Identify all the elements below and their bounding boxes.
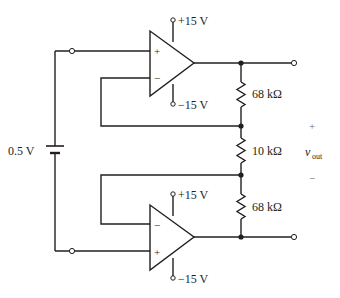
opamp-bottom-supply-neg: −15 V (178, 272, 209, 286)
supply-terminal (171, 18, 175, 22)
opamp-bottom-supply-pos: +15 V (178, 188, 209, 202)
opamp-top-supply-neg: −15 V (178, 98, 209, 112)
input-terminal-top (69, 48, 74, 53)
output-terminal-top (291, 60, 296, 65)
resistor-r2 (237, 138, 245, 163)
opamp-top-minus: − (154, 72, 160, 84)
opamp-top-plus: + (154, 45, 160, 57)
resistor-r1-label: 68 kΩ (252, 87, 282, 101)
output-terminal-bottom (291, 234, 296, 239)
vout-sub: out (312, 152, 323, 161)
battery-label: 0.5 V (8, 144, 35, 158)
vout-v: v (305, 145, 311, 159)
resistor-r3-label: 68 kΩ (252, 200, 282, 214)
supply-terminal (171, 276, 175, 280)
vout-label: + v out − (305, 120, 323, 184)
circuit-diagram: 0.5 V + − +15 V −15 V − + +15 V −15 V (0, 0, 340, 298)
input-terminal-bottom (69, 248, 74, 253)
resistor-chain: 68 kΩ 10 kΩ 68 kΩ (237, 63, 282, 237)
resistor-r3 (237, 194, 245, 219)
vout-plus: + (309, 120, 315, 132)
opamp-top-supply-pos: +15 V (178, 14, 209, 28)
supply-terminal (171, 192, 175, 196)
resistor-r1 (237, 82, 245, 107)
opamp-bottom-plus: + (154, 246, 160, 258)
supply-terminal (171, 102, 175, 106)
resistor-r2-label: 10 kΩ (252, 144, 282, 158)
vout-minus: − (309, 172, 315, 184)
opamp-bottom-minus: − (154, 219, 160, 231)
battery-branch: 0.5 V (8, 51, 64, 251)
